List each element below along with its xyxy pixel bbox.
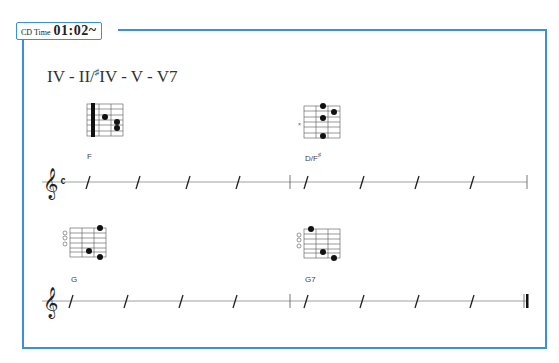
final-barline-thick [526, 294, 529, 308]
common-time-icon: 𝄴 [60, 174, 66, 189]
staff-system-1: 𝄞 𝄴 [42, 168, 527, 200]
staff-system-2: 𝄞 [42, 287, 529, 319]
treble-clef-icon: 𝄞 [43, 168, 58, 200]
music-notation: × 𝄞 𝄴 𝄞 [0, 0, 559, 363]
treble-clef-icon: 𝄞 [43, 287, 58, 319]
svg-text:×: × [298, 121, 301, 127]
